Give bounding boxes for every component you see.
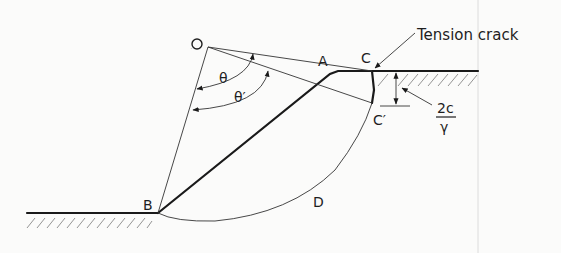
label-crack-depth-numerator: 2c <box>437 100 454 116</box>
label-C-prime: C′ <box>373 112 386 128</box>
label-A: A <box>318 53 328 69</box>
label-tension-crack: Tension crack <box>416 26 519 44</box>
diagram-canvas: O A C B D C′ θ θ′ Tension crack 2c γ <box>0 0 561 253</box>
label-B: B <box>143 197 153 213</box>
label-C: C <box>361 50 371 66</box>
radius-OCprime <box>208 47 372 103</box>
toe-hatching <box>27 218 152 228</box>
theta-prime-arc <box>193 71 268 110</box>
tension-crack <box>372 71 374 103</box>
tension-crack-leader <box>375 33 415 68</box>
point-O-marker <box>192 39 202 49</box>
radius-OB <box>158 47 208 213</box>
toe-ground <box>27 213 158 228</box>
label-D: D <box>313 194 324 210</box>
slope-stability-diagram: O A C B D C′ θ θ′ Tension crack 2c γ <box>0 0 561 253</box>
label-O: O <box>191 48 192 50</box>
crack-depth-leader <box>402 88 432 105</box>
label-crack-depth-denominator: γ <box>440 119 448 135</box>
crest-hatching <box>378 74 477 86</box>
radius-OC <box>208 47 372 71</box>
slip-arc <box>158 103 372 221</box>
label-theta-prime: θ′ <box>234 89 246 105</box>
slope-surface <box>158 71 478 213</box>
label-theta: θ <box>219 70 228 86</box>
